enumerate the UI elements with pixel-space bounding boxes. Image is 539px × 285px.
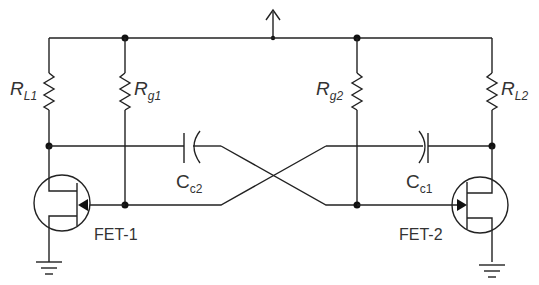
circuit-diagram: RL1 Rg1 Rg2 RL2 Cc2 Cc1 <box>0 0 539 285</box>
fet-2-icon <box>357 146 508 262</box>
label-cc1: Cc1 <box>406 171 433 196</box>
capacitor-cc2 <box>184 131 200 163</box>
label-rg2: Rg2 <box>316 78 343 103</box>
label-fet-1: FET-1 <box>94 226 138 243</box>
fet-1-icon <box>34 146 125 262</box>
capacitor-cc1 <box>419 131 428 163</box>
cross-wire <box>221 146 357 205</box>
resistor-rg2 <box>352 38 362 205</box>
ground-icon <box>479 265 505 277</box>
ground-icon <box>36 262 62 274</box>
resistor-rl2 <box>487 38 497 146</box>
cross-wire <box>125 146 326 205</box>
resistor-rg1 <box>120 38 130 205</box>
supply-arrow-icon <box>266 10 280 40</box>
label-rl1: RL1 <box>10 78 37 103</box>
label-rg1: Rg1 <box>134 78 161 103</box>
resistor-rl1 <box>44 38 54 146</box>
label-rl2: RL2 <box>501 78 528 103</box>
label-fet-2: FET-2 <box>399 226 443 243</box>
label-cc2: Cc2 <box>176 171 203 196</box>
